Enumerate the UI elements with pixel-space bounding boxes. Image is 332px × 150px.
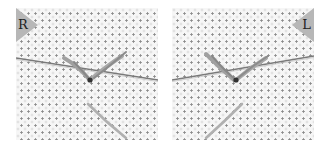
side-label: R xyxy=(18,18,28,31)
thread-strand xyxy=(238,56,268,78)
stitch-illustration-right-handed xyxy=(16,8,158,140)
needle-highlight xyxy=(172,58,314,82)
panel-left-handed: L xyxy=(172,8,314,140)
stitch-hole xyxy=(233,77,238,82)
thread-tail xyxy=(88,104,126,138)
panel-right-handed: R xyxy=(16,8,158,140)
side-label: L xyxy=(302,18,311,31)
thread-strand xyxy=(206,54,234,80)
thread-strand xyxy=(74,62,90,80)
thread-strand xyxy=(212,56,236,80)
stitch-illustration-left-handed xyxy=(172,8,314,140)
stitch-hole xyxy=(87,77,92,82)
thread-tail xyxy=(206,104,242,138)
